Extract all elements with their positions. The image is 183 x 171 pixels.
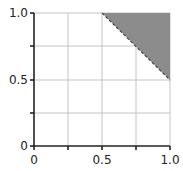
chart: 1.0 0.5 0 0 0.5 1.0 bbox=[0, 0, 183, 171]
y-tick-label-05: 0.5 bbox=[9, 73, 28, 87]
x-tick-label-1: 1.0 bbox=[160, 153, 179, 167]
x-tick-label-0: 0 bbox=[30, 153, 38, 167]
x-tick-label-05: 0.5 bbox=[92, 153, 111, 167]
y-tick-label-1: 1.0 bbox=[9, 6, 28, 20]
y-tick-label-0: 0 bbox=[20, 139, 28, 153]
